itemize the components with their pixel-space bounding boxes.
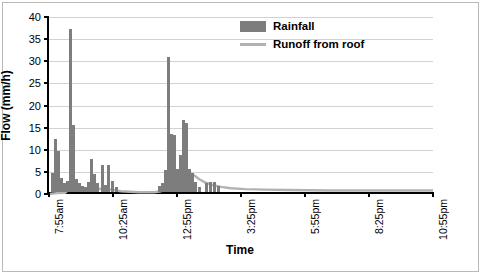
x-axis-title: Time (47, 243, 433, 257)
gridline (49, 83, 433, 84)
y-axis-tick-label: 40 (29, 11, 41, 23)
rainfall-bar (111, 181, 114, 192)
x-axis-tick-label: 8:25pm (373, 199, 385, 234)
y-axis-tick-label: 25 (29, 77, 41, 89)
gridline (49, 128, 433, 129)
y-axis-tick (44, 127, 49, 129)
legend: Rainfall Runoff from roof (240, 20, 364, 50)
x-axis-tick (240, 192, 242, 197)
x-axis-tick-label: 7:55am (53, 199, 65, 234)
y-axis-tick (44, 149, 49, 151)
y-axis-tick-label: 35 (29, 33, 41, 45)
y-axis-tick-label: 15 (29, 122, 41, 134)
x-axis-tick-label: 10:25am (117, 199, 129, 240)
gridline (49, 17, 433, 18)
x-axis-tick-label: 12:55pm (181, 199, 193, 240)
legend-item-rainfall: Rainfall (240, 20, 364, 32)
x-axis-tick (112, 192, 114, 197)
y-axis-tick-label: 30 (29, 55, 41, 67)
gridline (49, 106, 433, 107)
y-axis-title: Flow (mm/h) (0, 17, 14, 194)
y-axis-tick-label: 10 (29, 144, 41, 156)
y-axis-tick (44, 16, 49, 18)
x-axis-tick-label: 3:25pm (245, 199, 257, 234)
x-axis-tick (176, 192, 178, 197)
x-axis-tick (304, 192, 306, 197)
rainfall-bar (96, 183, 99, 192)
y-axis-tick (44, 171, 49, 173)
rainfall-bar (107, 165, 110, 192)
y-axis-tick-label: 0 (35, 188, 41, 200)
rainfall-bar (205, 183, 208, 192)
y-axis-tick (44, 38, 49, 40)
gridline (49, 61, 433, 62)
y-axis-tick (44, 105, 49, 107)
legend-swatch-runoff (240, 43, 266, 46)
chart-container: Flow (mm/h) 05101520253035407:55am10:25a… (0, 0, 482, 275)
x-axis-tick-label: 10:55pm (437, 199, 449, 240)
x-axis-tick-label: 5:55pm (309, 199, 321, 234)
rainfall-bar (194, 182, 197, 192)
x-axis-tick (432, 192, 434, 197)
rainfall-bar (115, 187, 118, 192)
legend-label-rainfall: Rainfall (273, 20, 315, 32)
legend-label-runoff: Runoff from roof (273, 38, 364, 50)
x-axis-tick (368, 192, 370, 197)
x-axis-tick (48, 192, 50, 197)
y-axis-tick-label: 5 (35, 166, 41, 178)
legend-item-runoff: Runoff from roof (240, 38, 364, 50)
gridline (49, 150, 433, 151)
y-axis-tick-label: 20 (29, 100, 41, 112)
rainfall-bar (213, 182, 216, 192)
y-axis-tick (44, 60, 49, 62)
y-axis-tick (44, 82, 49, 84)
legend-swatch-rainfall (240, 21, 266, 32)
rainfall-bar (209, 182, 212, 192)
rainfall-bar (217, 186, 220, 192)
rainfall-bar (198, 187, 201, 192)
